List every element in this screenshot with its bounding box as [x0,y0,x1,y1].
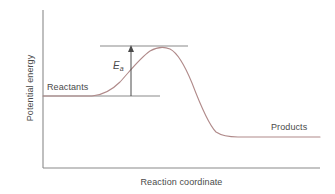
activation-energy-symbol: E [113,60,120,71]
reactants-label: Reactants [47,82,88,92]
activation-energy-subscript: a [120,65,124,72]
y-axis-label: Potential energy [25,32,35,144]
reaction-energy-plot [0,0,335,194]
energy-diagram-figure: Potential energy Reaction coordinate Rea… [0,0,335,194]
products-label: Products [271,122,307,132]
activation-energy-label: Ea [113,60,124,71]
x-axis-label: Reaction coordinate [43,177,320,187]
